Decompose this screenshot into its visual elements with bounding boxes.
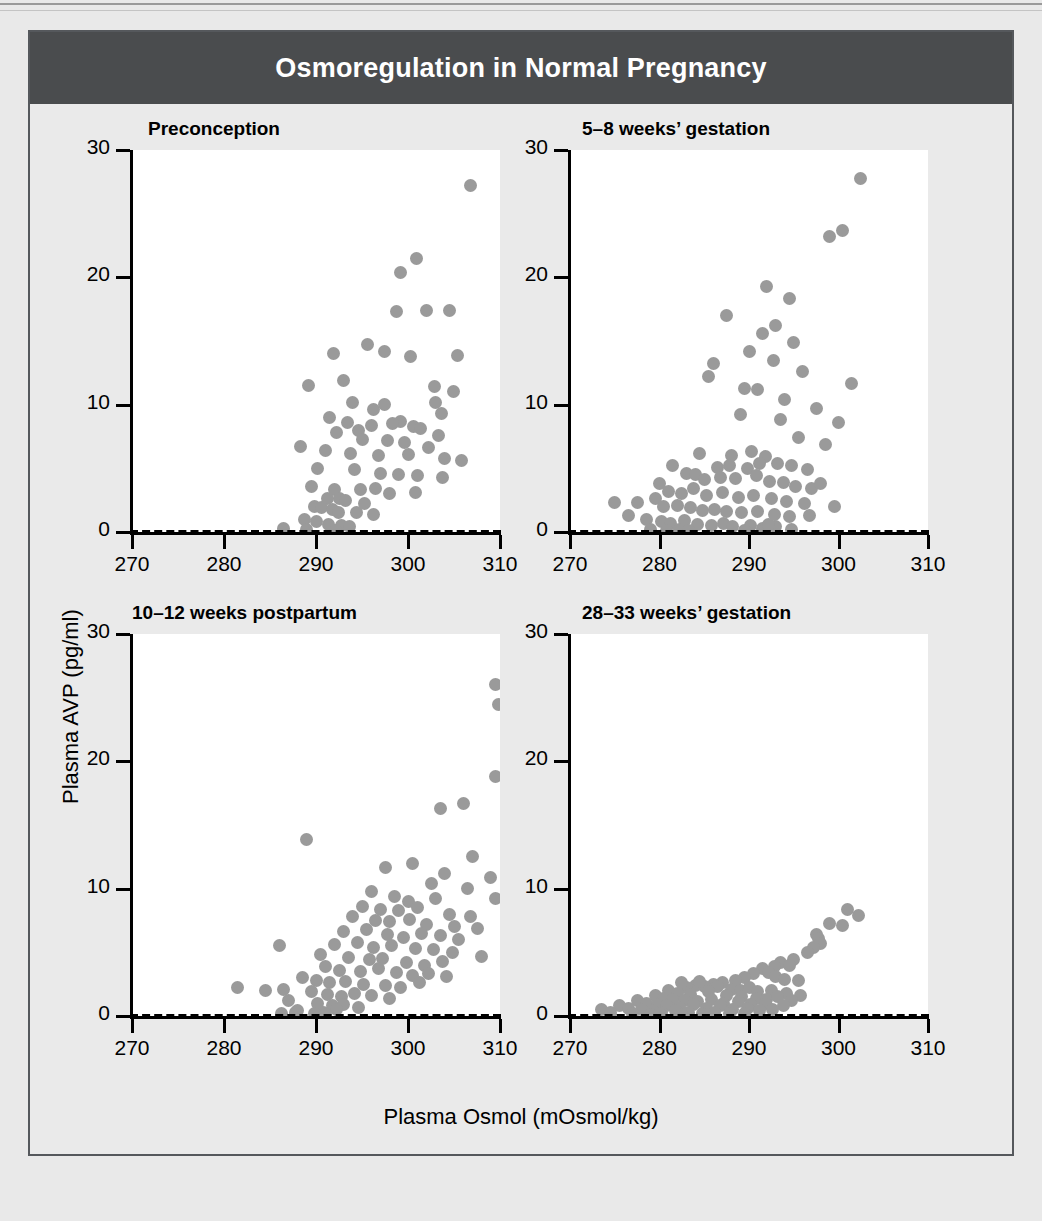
- data-point: [836, 919, 849, 932]
- x-tick-label: 300: [804, 1036, 874, 1060]
- data-point: [778, 973, 791, 986]
- x-tick-label: 280: [625, 1036, 695, 1060]
- x-tick: [748, 1019, 751, 1033]
- y-tick: [554, 633, 568, 636]
- figure-title-bar: Osmoregulation in Normal Pregnancy: [30, 32, 1012, 104]
- plot-area: [570, 634, 928, 1016]
- page-top-rule-secondary: [0, 10, 1042, 11]
- scatter-panel-4: 28–33 weeks’ gestation010203027028029030…: [30, 104, 1012, 1154]
- x-tick-label: 270: [535, 1036, 605, 1060]
- plot-surface: Plasma AVP (pg/ml) Plasma Osmol (mOsmol/…: [30, 104, 1012, 1154]
- page-top-rule-primary: [0, 3, 1042, 5]
- figure-container: Osmoregulation in Normal Pregnancy Plasm…: [28, 30, 1014, 1156]
- y-tick: [554, 1015, 568, 1018]
- data-point: [801, 946, 814, 959]
- x-tick: [838, 1019, 841, 1033]
- zero-reference-line: [568, 1014, 929, 1018]
- data-point: [783, 959, 796, 972]
- y-tick: [554, 888, 568, 891]
- y-tick-label: 30: [480, 619, 548, 643]
- x-tick-label: 310: [893, 1036, 963, 1060]
- y-tick: [554, 760, 568, 763]
- data-point: [823, 917, 836, 930]
- y-tick-label: 10: [480, 874, 548, 898]
- figure-title: Osmoregulation in Normal Pregnancy: [275, 53, 766, 84]
- y-tick-label: 0: [480, 1001, 548, 1025]
- y-axis-line: [568, 634, 571, 1017]
- data-point: [792, 974, 805, 987]
- x-tick: [659, 1019, 662, 1033]
- data-point: [852, 909, 865, 922]
- x-tick: [927, 1019, 930, 1033]
- x-tick: [569, 1019, 572, 1033]
- page-background: Osmoregulation in Normal Pregnancy Plasm…: [0, 0, 1042, 1221]
- x-tick-label: 290: [714, 1036, 784, 1060]
- panel-title: 28–33 weeks’ gestation: [582, 602, 791, 624]
- y-tick-label: 20: [480, 746, 548, 770]
